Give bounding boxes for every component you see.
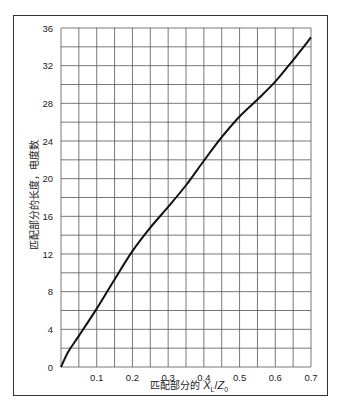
x-axis-label: 匹配部分的 XL/Z0	[150, 377, 228, 393]
y-tick-label: 32	[42, 60, 53, 71]
y-tick-label: 16	[42, 211, 53, 222]
y-tick-label: 8	[48, 286, 53, 297]
line-chart: 04812162024283236 0.10.20.30.40.50.60.7	[0, 0, 340, 407]
x-tick-label: 0.1	[90, 372, 103, 383]
x-axis-var-xl: XL	[203, 379, 214, 391]
y-tick-label: 24	[42, 136, 53, 147]
x-tick-label: 0.7	[304, 372, 317, 383]
y-tick-label: 0	[48, 362, 53, 373]
y-tick-label: 12	[42, 249, 53, 260]
x-tick-label: 0.6	[269, 372, 282, 383]
y-tick-label: 28	[42, 98, 53, 109]
y-tick-label: 36	[42, 23, 53, 34]
x-axis-label-prefix: 匹配部分的	[150, 380, 200, 391]
x-tick-label: 0.5	[233, 372, 246, 383]
x-tick-label: 0.2	[126, 372, 139, 383]
grid-lines	[61, 28, 311, 367]
y-axis-label: 匹配部分的长度，电度数	[26, 140, 41, 250]
y-tick-label: 4	[48, 324, 53, 335]
x-axis-var-z0: Z0	[218, 379, 229, 391]
z-sub: 0	[224, 386, 228, 393]
y-axis-ticks: 04812162024283236	[42, 23, 53, 373]
x-var: X	[203, 379, 210, 391]
y-tick-label: 20	[42, 173, 53, 184]
